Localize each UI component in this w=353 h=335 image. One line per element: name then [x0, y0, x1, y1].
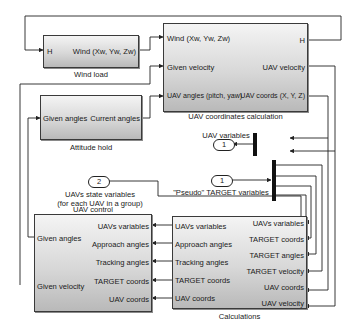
uav-control-output-given-velocity: Given velocity [37, 282, 84, 291]
uav-calc-input-uav-angles: UAV angles (pitch, yaw) [167, 92, 242, 101]
calculations-block[interactable]: UAVs variables Approach angles Tracking … [172, 216, 307, 309]
uav-calc-output-uav-coords: UAV coords (X, Y, Z) [240, 92, 305, 101]
uav-control-input-uavs-variables: UAVs variables [98, 222, 149, 231]
uav-control-block[interactable]: Given angles Given velocity UAVs variabl… [34, 214, 152, 312]
uav-control-input-approach-angles: Approach angles [92, 240, 149, 249]
wind-load-block[interactable]: H Wind (Xw, Yw, Zw) [43, 35, 139, 68]
calc-output-tracking-angles: Tracking angles [175, 258, 228, 267]
uav-control-input-target-coords: TARGET coords [94, 277, 149, 286]
uav-calc-output-uav-velocity: UAV velocity [263, 63, 305, 72]
uavs-state-caption-line1: UAVs state variables [40, 190, 160, 199]
attitude-hold-output-current-angles: Current angles [90, 114, 140, 123]
calc-input-target-coords: TARGET coords [249, 235, 304, 244]
calc-input-uavs-variables: UAVs variables [253, 219, 304, 228]
calc-output-uav-coords: UAV coords [175, 294, 215, 303]
wind-load-caption: Wind load [43, 70, 139, 79]
uav-coordinates-calculation-caption: UAV coordinates calculation [163, 112, 308, 121]
uav-control-output-given-angles: Given angles [37, 234, 81, 243]
calc-input-target-angles: TARGET angles [249, 251, 304, 260]
simulink-diagram: H Wind (Xw, Yw, Zw) Wind load Wind (Xw, … [0, 0, 353, 335]
outport-1-uav-variables[interactable]: 1 [213, 139, 235, 151]
uav-control-caption: UAV control [34, 205, 152, 214]
calc-input-uav-coords: UAV coords [264, 283, 304, 292]
uav-coordinates-calculation-block[interactable]: Wind (Xw, Yw, Zw) Given velocity UAV ang… [163, 23, 308, 112]
calc-input-uav-velocity: UAV velocity [262, 299, 304, 308]
inport-2-uavs-state[interactable]: 2 [88, 176, 110, 188]
calc-input-target-velocity: TARGET velocity [246, 267, 304, 276]
pseudo-target-caption: "Pseudo" TARGET variables [170, 188, 272, 197]
attitude-hold-input-given-angles: Given angles [43, 114, 87, 123]
pseudo-target-demux [272, 160, 276, 201]
inport-1-pseudo-target[interactable]: 1 [211, 175, 233, 187]
calc-output-target-coords: TARGET coords [175, 276, 230, 285]
wind-load-input-h: H [47, 47, 52, 56]
uav-control-input-uav-coords: UAV coords [109, 295, 149, 304]
uav-calc-input-given-velocity: Given velocity [167, 63, 214, 72]
calc-output-approach-angles: Approach angles [175, 240, 232, 249]
uav-control-input-tracking-angles: Tracking angles [96, 258, 149, 267]
attitude-hold-block[interactable]: Given angles Current angles [40, 95, 142, 140]
uav-calc-input-wind: Wind (Xw, Yw, Zw) [167, 34, 230, 43]
uav-variables-mux [253, 133, 257, 156]
calculations-caption: Calculations [172, 312, 307, 321]
attitude-hold-caption: Attitude hold [40, 143, 142, 152]
uav-calc-output-h: H [300, 36, 305, 45]
calc-output-uavs-variables: UAVs variables [175, 222, 226, 231]
wind-load-output-wind: Wind (Xw, Yw, Zw) [73, 47, 136, 56]
